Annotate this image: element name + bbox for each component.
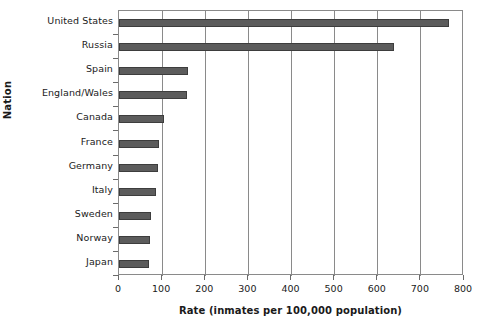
y-axis-tick-label: Spain: [0, 63, 113, 74]
y-axis-tick-label: France: [0, 136, 113, 147]
bar: [119, 188, 156, 196]
bar: [119, 43, 394, 51]
y-axis-tick: [113, 130, 118, 131]
x-axis-tick-label: 200: [184, 283, 224, 294]
y-axis-tick: [113, 106, 118, 107]
x-axis-tick-label: 400: [271, 283, 311, 294]
x-axis-tick: [463, 275, 464, 280]
x-axis-title: Rate (inmates per 100,000 population): [118, 305, 463, 316]
x-axis-tick-label: 800: [443, 283, 483, 294]
bar: [119, 164, 158, 172]
bar: [119, 67, 188, 75]
y-axis-tick-label: United States: [0, 15, 113, 26]
x-axis-tick-label: 700: [400, 283, 440, 294]
y-axis-tick: [113, 203, 118, 204]
y-axis-tick: [113, 251, 118, 252]
x-axis-tick: [419, 275, 420, 280]
x-axis-tick: [161, 275, 162, 280]
gridline: [420, 11, 421, 276]
y-axis-tick-label: England/Wales: [0, 87, 113, 98]
bar: [119, 212, 151, 220]
bar: [119, 115, 164, 123]
bar: [119, 260, 149, 268]
plot-area: [118, 10, 463, 275]
y-axis-tick: [113, 179, 118, 180]
x-axis-tick-label: 0: [98, 283, 138, 294]
x-axis-tick-label: 100: [141, 283, 181, 294]
y-axis-category-labels: United StatesRussiaSpainEngland/WalesCan…: [0, 0, 113, 332]
y-axis-tick-label: Italy: [0, 184, 113, 195]
x-axis-tick-label: 600: [357, 283, 397, 294]
x-axis-tick: [204, 275, 205, 280]
x-axis-tick: [376, 275, 377, 280]
x-axis-tick: [247, 275, 248, 280]
y-axis-tick: [113, 34, 118, 35]
y-axis-tick-label: Canada: [0, 111, 113, 122]
y-axis-tick-label: Japan: [0, 256, 113, 267]
bar-chart-figure: Nation United StatesRussiaSpainEngland/W…: [0, 0, 484, 332]
y-axis-tick-label: Germany: [0, 160, 113, 171]
bar: [119, 236, 150, 244]
y-axis-tick-label: Sweden: [0, 208, 113, 219]
y-axis-tick: [113, 155, 118, 156]
x-axis-tick: [290, 275, 291, 280]
y-axis-tick: [113, 227, 118, 228]
bar: [119, 91, 187, 99]
x-axis-tick-label: 500: [314, 283, 354, 294]
x-axis-tick: [333, 275, 334, 280]
bar: [119, 140, 159, 148]
x-axis-tick: [118, 275, 119, 280]
y-axis-tick: [113, 58, 118, 59]
y-axis-tick: [113, 82, 118, 83]
x-axis-tick-label: 300: [227, 283, 267, 294]
y-axis-tick-label: Norway: [0, 232, 113, 243]
bar: [119, 19, 449, 27]
y-axis-tick-label: Russia: [0, 39, 113, 50]
